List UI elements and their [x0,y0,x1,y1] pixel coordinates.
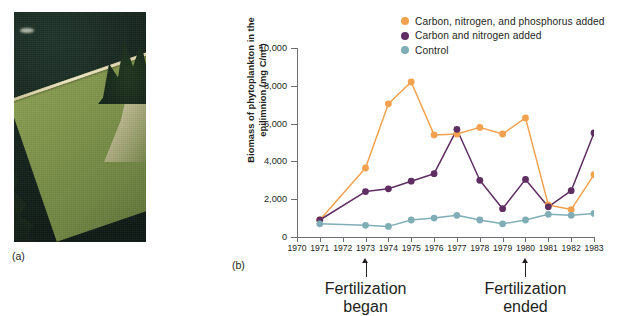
x-tick [297,238,298,242]
series-point-2-4 [431,215,438,222]
x-tick-label: 1971 [310,243,329,253]
legend-item-0: Carbon, nitrogen, and phosphorus added [401,14,605,29]
panel-b-chart: Carbon, nitrogen, and phosphorus addedCa… [225,0,619,311]
photo-grain-overlay [14,12,146,242]
series-point-1-8 [522,176,529,183]
x-tick-label: 1977 [447,243,466,253]
x-tick-label: 1975 [402,243,421,253]
legend-item-1: Carbon and nitrogen added [401,29,605,44]
aerial-photo-divided-lake [14,12,146,242]
x-tick [571,238,572,242]
series-point-1-6 [476,177,483,184]
panel-b-label: (b) [232,259,245,271]
x-tick [503,238,504,242]
legend-label: Carbon, nitrogen, and phosphorus added [415,16,605,27]
annotation-arrow-shaft [366,263,367,277]
series-point-0-4 [431,132,438,139]
y-tick-label: 6,000 [264,119,287,129]
x-tick [434,238,435,242]
annotation-line2: ended [485,298,567,316]
annotation-arrow-shaft [525,263,526,277]
x-tick-label: 1982 [562,243,581,253]
panel-a-label: (a) [12,250,25,262]
x-tick-label: 1983 [584,243,603,253]
series-point-0-7 [499,131,506,138]
legend-label: Carbon and nitrogen added [415,30,542,41]
series-point-2-5 [454,212,461,219]
series-point-2-7 [499,220,506,227]
series-point-1-2 [385,185,392,192]
series-point-2-3 [408,217,415,224]
x-tick [366,238,367,242]
annotation-text-1: Fertilizationended [485,280,567,316]
x-tick [388,238,389,242]
annotation-line1: Fertilization [325,280,407,298]
series-point-2-0 [316,220,323,227]
y-axis-title-line1: Biomass of phytoplankton in the [245,17,256,162]
x-tick-label: 1976 [425,243,444,253]
x-tick-label: 1979 [493,243,512,253]
x-tick [320,238,321,242]
series-point-0-6 [476,124,483,131]
series-point-0-3 [408,79,415,86]
annotation-line1: Fertilization [485,280,567,298]
x-tick [343,238,344,242]
x-tick [548,238,549,242]
series-point-1-9 [545,203,552,210]
x-tick [525,238,526,242]
x-tick-label: 1973 [356,243,375,253]
series-point-2-10 [568,212,575,219]
series-point-0-2 [385,100,392,107]
series-point-1-5 [454,126,461,133]
x-tick-label: 1980 [516,243,535,253]
annotation-text-0: Fertilizationbegan [325,280,407,316]
legend-marker-icon [401,17,409,25]
series-point-1-4 [431,170,438,177]
series-point-0-1 [362,165,369,172]
series-point-0-11 [591,171,594,178]
panel-a-photo [14,12,146,242]
series-point-0-8 [522,115,529,122]
x-tick-label: 1974 [379,243,398,253]
x-tick-label: 1972 [333,243,352,253]
series-point-2-1 [362,222,369,229]
series-point-1-11 [591,130,594,137]
y-tick-label: 4,000 [264,156,287,166]
x-tick [457,238,458,242]
series-point-1-7 [499,205,506,212]
x-tick [411,238,412,242]
x-tick [480,238,481,242]
series-point-2-8 [522,217,529,224]
y-tick-label: 0 [282,232,287,242]
x-tick [594,238,595,242]
legend-marker-icon [401,32,409,40]
series-point-1-1 [362,188,369,195]
series-point-2-9 [545,211,552,218]
y-tick-label: 10,000 [259,43,287,53]
annotation-line2: began [325,298,407,316]
series-line-0 [320,82,594,220]
y-tick-label: 8,000 [264,81,287,91]
series-point-1-3 [408,178,415,185]
series-point-2-11 [591,210,594,217]
series-point-1-10 [568,187,575,194]
series-point-2-2 [385,223,392,230]
chart-series-layer [297,48,594,238]
y-tick-label: 2,000 [264,194,287,204]
x-tick-label: 1978 [470,243,489,253]
x-tick-label: 1970 [287,243,306,253]
x-tick-label: 1981 [539,243,558,253]
series-point-2-6 [476,217,483,224]
